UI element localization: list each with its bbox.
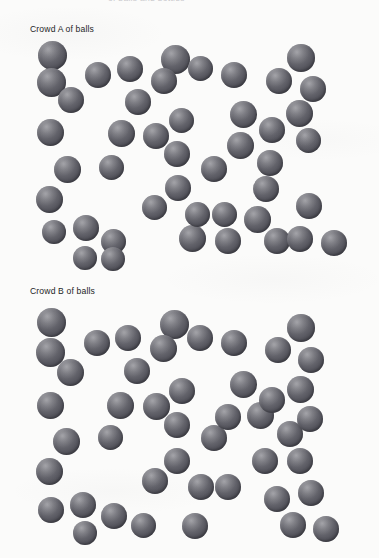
- ball: [185, 202, 210, 227]
- ball: [221, 62, 247, 88]
- ball: [73, 215, 99, 241]
- ball: [321, 230, 347, 256]
- ball: [230, 101, 257, 128]
- ball: [296, 193, 322, 219]
- ball: [179, 225, 206, 252]
- ball: [37, 392, 64, 419]
- ball: [142, 468, 168, 494]
- ball: [131, 513, 156, 538]
- ball: [201, 156, 227, 182]
- ball: [143, 123, 169, 149]
- ball: [36, 458, 63, 485]
- ball: [73, 521, 97, 545]
- ball: [265, 337, 291, 363]
- ball: [37, 308, 66, 337]
- ball: [313, 516, 339, 542]
- ball: [287, 376, 314, 403]
- crowd-a-group: [25, 38, 375, 263]
- ball: [150, 335, 177, 362]
- ball: [259, 387, 285, 413]
- ball: [244, 206, 271, 233]
- ball: [164, 141, 190, 167]
- ball: [84, 330, 110, 356]
- ball: [107, 392, 134, 419]
- ball: [124, 358, 150, 384]
- ball: [187, 325, 213, 351]
- ball: [298, 480, 324, 506]
- ball: [38, 497, 64, 523]
- ball: [188, 474, 214, 500]
- ball: [36, 186, 63, 213]
- ball: [42, 220, 66, 244]
- ball: [54, 156, 81, 183]
- ball: [101, 503, 127, 529]
- ball: [38, 41, 67, 70]
- ball: [298, 347, 324, 373]
- ball: [115, 325, 141, 351]
- ball: [70, 492, 96, 518]
- ball: [215, 404, 241, 430]
- ball: [98, 425, 123, 450]
- ball: [73, 246, 97, 270]
- ball: [297, 406, 323, 432]
- ball: [253, 176, 279, 202]
- ball: [108, 120, 135, 147]
- ball: [259, 117, 285, 143]
- ball: [215, 228, 241, 254]
- crowd-b-label: Crowd B of balls: [30, 286, 95, 297]
- ball: [296, 128, 321, 153]
- ball: [85, 62, 111, 88]
- ball: [286, 100, 313, 127]
- ball: [188, 56, 213, 81]
- ball: [287, 44, 315, 72]
- ball: [212, 202, 237, 227]
- ball: [164, 412, 190, 438]
- ball: [125, 89, 151, 115]
- ball: [151, 68, 177, 94]
- ball: [57, 359, 84, 386]
- ball: [287, 314, 315, 342]
- ball: [142, 195, 167, 220]
- ball: [280, 512, 306, 538]
- ball: [287, 448, 313, 474]
- ball: [58, 87, 84, 113]
- ball: [264, 228, 290, 254]
- crowd-b-group: [25, 300, 375, 554]
- ball: [182, 513, 208, 539]
- ball: [99, 155, 124, 180]
- ball: [37, 119, 64, 146]
- clipped-header-text: of balls and bottles: [108, 0, 185, 3]
- ball: [230, 371, 257, 398]
- ball: [227, 132, 254, 159]
- ball: [264, 486, 290, 512]
- ball: [165, 175, 191, 201]
- ball: [257, 150, 283, 176]
- ball: [53, 428, 80, 455]
- diagram-page: of balls and bottles Crowd A of balls Cr…: [0, 0, 379, 558]
- crowd-a-label: Crowd A of balls: [30, 24, 94, 35]
- ball: [215, 474, 241, 500]
- ball: [164, 448, 190, 474]
- ball: [169, 108, 194, 133]
- ball: [287, 226, 313, 252]
- ball: [169, 378, 195, 404]
- ball: [221, 330, 247, 356]
- ball: [101, 247, 125, 271]
- ball: [117, 56, 143, 82]
- ball: [300, 76, 326, 102]
- ball: [252, 448, 278, 474]
- ball: [266, 68, 292, 94]
- clipped-page-header: of balls and bottles: [0, 0, 379, 9]
